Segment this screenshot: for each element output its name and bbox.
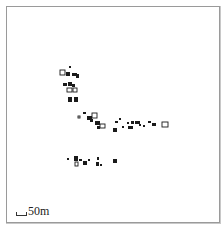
building-footprint — [115, 121, 118, 123]
building-footprint — [122, 126, 124, 128]
building-footprint — [119, 118, 121, 120]
building-footprint — [113, 128, 117, 132]
building-footprint — [69, 66, 71, 68]
building-footprint — [97, 126, 100, 129]
building-footprint — [152, 123, 156, 126]
building-footprint — [83, 161, 87, 165]
building-footprints — [60, 66, 168, 166]
building-footprint — [113, 159, 117, 163]
cluster-central-band — [78, 112, 168, 132]
building-footprint — [88, 159, 90, 161]
building-footprint — [74, 156, 78, 161]
building-footprint — [83, 112, 86, 114]
building-footprint — [79, 159, 82, 161]
building-footprint — [74, 97, 78, 102]
scale-bar-line — [16, 212, 27, 216]
building-footprint — [72, 84, 75, 87]
building-footprint — [100, 164, 102, 166]
building-footprint — [148, 121, 151, 123]
building-footprint — [68, 82, 72, 86]
building-footprint — [67, 158, 69, 160]
cluster-south-row — [67, 156, 117, 166]
building-footprint — [90, 119, 93, 122]
cluster-north-column — [60, 66, 79, 102]
building-footprint — [97, 157, 99, 160]
building-footprint — [73, 88, 77, 92]
building-footprint — [100, 124, 105, 128]
building-footprint — [139, 124, 141, 126]
building-footprint — [75, 162, 78, 166]
building-footprint — [60, 70, 65, 75]
building-footprint — [131, 121, 134, 124]
building-footprint — [78, 116, 80, 118]
building-footprint — [66, 72, 70, 76]
building-footprint — [76, 74, 79, 78]
building-footprint — [162, 122, 168, 127]
building-footprint — [128, 126, 133, 129]
building-footprint — [67, 88, 72, 92]
building-footprint — [96, 162, 99, 166]
settlement-map — [0, 0, 224, 226]
building-footprint — [143, 125, 145, 127]
scale-bar: 50m — [16, 204, 96, 220]
building-footprint — [68, 97, 72, 102]
scale-bar-label: 50m — [28, 204, 49, 218]
building-footprint — [127, 122, 129, 124]
building-footprint — [63, 83, 67, 86]
building-footprint — [95, 121, 100, 125]
building-footprint — [92, 113, 97, 118]
building-footprint — [135, 121, 140, 124]
